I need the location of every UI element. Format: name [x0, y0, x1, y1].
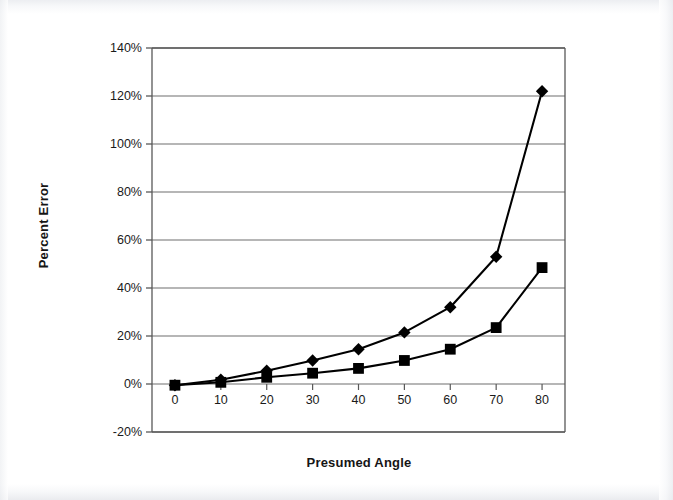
chart-page: 140%120%100%80%60%40%20%0%-20% 010203040…	[0, 0, 673, 500]
y-tick-label: 120%	[60, 89, 142, 103]
data-point-square	[537, 262, 548, 273]
x-axis-title: Presumed Angle	[152, 455, 566, 470]
x-tick-label: 20	[260, 393, 274, 407]
data-point-square	[261, 372, 272, 383]
y-tick-label: 100%	[60, 137, 142, 151]
y-tick-marks	[146, 48, 152, 432]
y-tick-label: 140%	[60, 41, 142, 55]
y-axis-title: Percent Error	[36, 141, 51, 311]
data-point-square	[215, 377, 226, 388]
x-tick-label: 70	[489, 393, 503, 407]
y-tick-label: -20%	[60, 425, 142, 439]
x-tick-label: 30	[306, 393, 320, 407]
y-tick-label: 40%	[60, 281, 142, 295]
data-point-square	[491, 322, 502, 333]
x-tick-label: 0	[171, 393, 178, 407]
x-tick-label: 60	[443, 393, 457, 407]
data-point-square	[445, 344, 456, 355]
data-point-square	[353, 363, 364, 374]
y-tick-label: 0%	[60, 377, 142, 391]
x-tick-label: 50	[397, 393, 411, 407]
x-tick-label: 40	[352, 393, 366, 407]
x-tick-label: 80	[535, 393, 549, 407]
data-point-square	[170, 380, 181, 391]
y-tick-label: 20%	[60, 329, 142, 343]
y-tick-label: 60%	[60, 233, 142, 247]
x-tick-label: 10	[214, 393, 228, 407]
y-tick-label: 80%	[60, 185, 142, 199]
data-point-square	[399, 355, 410, 366]
data-point-square	[307, 368, 318, 379]
